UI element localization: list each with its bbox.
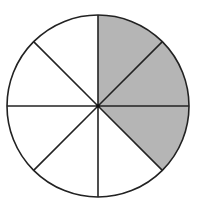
center-point	[96, 104, 100, 108]
fraction-circle	[0, 0, 202, 211]
